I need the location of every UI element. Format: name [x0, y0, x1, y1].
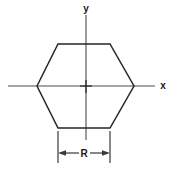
x-axis-label: x — [160, 80, 166, 91]
dimension-label-r: R — [80, 148, 88, 159]
diagram-canvas: x y R — [0, 0, 172, 176]
y-axis-label: y — [83, 3, 89, 14]
hexagon-diagram-figure: x y R — [0, 0, 172, 176]
